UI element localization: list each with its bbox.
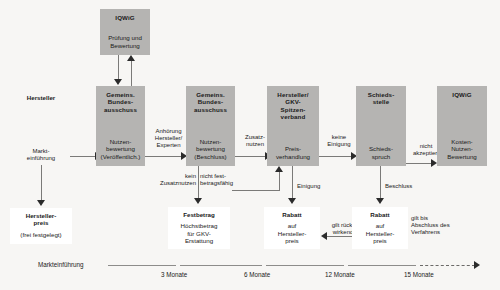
node-herstellerpreis-body: (frei festgelegt): [10, 227, 72, 238]
edge-feedback-line-horizontal: [232, 190, 280, 191]
edge-schiedsstelle-to-rabatt2-arrow: [376, 198, 384, 204]
node-festbetrag-header: Festbetrag: [168, 207, 230, 218]
flowchart-diagram: IQWiG Prüfung und Bewertung Hersteller M…: [0, 0, 500, 290]
edge-iqwig-to-gba1-arrow: [114, 79, 122, 85]
node-hersteller-body: Markt- einführung: [12, 148, 70, 162]
timeline-segment-3: [266, 265, 344, 266]
edge-gba1-to-gba2-line: [145, 156, 182, 157]
timeline-segment-dashed: [420, 265, 475, 266]
node-iqwig-right-body: Kosten- Nutzen- Bewertung: [437, 138, 487, 160]
node-hersteller-header: Hersteller: [12, 94, 70, 101]
edge-gba2-to-festbetrag-line: [198, 166, 199, 199]
node-rabatt-1-header: Rabatt: [264, 207, 320, 218]
timeline-tick-label-15-monate: 15 Monate: [404, 271, 434, 278]
node-iqwig-top-header: IQWiG: [100, 9, 150, 21]
edge-schiedsstelle-to-iqwig-line: [406, 163, 432, 164]
node-rabatt-2-header: Rabatt: [352, 207, 408, 218]
node-schiedsstelle: Schieds- stelle Schieds- spruch: [356, 86, 406, 166]
edge-gba1-to-iqwig-line: [131, 61, 132, 86]
timeline-tick-label-6-monate: 6 Monate: [244, 271, 270, 278]
timeline-start-label: Markteinführung: [38, 261, 84, 268]
edge-label-gilt-bis-abschluss: gilt bis Abschluss des Verfahrens: [411, 215, 481, 237]
node-hersteller-gkv-spitzenverband: Hersteller/ GKV- Spitzen- verband Preis-…: [267, 86, 319, 166]
edge-hersteller-to-preis-arrow: [37, 200, 45, 206]
edge-label-beschluss: Beschluss: [385, 183, 427, 190]
node-rabatt-1-body: auf Hersteller- preis: [264, 218, 320, 244]
node-festbetrag-body: Höchstbetrag für GKV- Erstattung: [168, 218, 230, 244]
edge-label-nicht-festbetragsfaehig: nicht fest- betragsfähig: [200, 173, 256, 187]
node-hersteller: Hersteller: [12, 94, 70, 106]
timeline-segment-1: [108, 265, 176, 266]
timeline-end-arrow: [474, 261, 480, 269]
node-gba-1-header: Gemeins. Bundes- ausschuss: [96, 86, 145, 113]
edge-verband-to-rabatt1-arrow: [288, 198, 296, 204]
edge-verband-to-schiedsstelle-line: [319, 156, 352, 157]
edge-gba2-to-verband-line: [235, 156, 266, 157]
edge-verband-to-rabatt1-line: [292, 166, 293, 199]
node-iqwig-top: IQWiG Prüfung und Bewertung: [100, 9, 150, 55]
edge-rabatt2-to-rabatt1-arrow: [321, 232, 327, 240]
node-gba-2-body: Nutzen- bewertung (Beschluss): [186, 138, 235, 160]
edge-feedback-line-vertical: [279, 172, 280, 191]
node-iqwig-top-body: Prüfung und Bewertung: [100, 34, 150, 49]
node-verband-body: Preis- verhandlung: [267, 145, 319, 160]
node-verband-header: Hersteller/ GKV- Spitzen- verband: [267, 86, 319, 120]
node-herstellerpreis: Hersteller- preis (frei festgelegt): [10, 208, 72, 244]
timeline-segment-4: [348, 265, 416, 266]
edge-gba1-to-iqwig-arrow: [127, 55, 135, 61]
node-schiedsstelle-body: Schieds- spruch: [356, 145, 406, 160]
timeline-tick-label-3-monate: 3 Monate: [161, 271, 187, 278]
node-gba-1: Gemeins. Bundes- ausschuss Nutzen- bewer…: [96, 86, 145, 166]
node-gba-1-body: Nutzen- bewertung (Veröffentlich.): [96, 138, 145, 160]
node-iqwig-right-header: IQWiG: [437, 86, 487, 98]
timeline-segment-2: [180, 265, 262, 266]
edge-label-kein-zusatznutzen: kein Zusatznutzen: [147, 173, 196, 187]
edge-label-anhoerung: Anhörung Hersteller/ Experten: [146, 128, 191, 150]
edge-schiedsstelle-to-rabatt2-line: [380, 166, 381, 199]
edge-label-einigung: Einigung: [297, 183, 337, 190]
timeline-tick-label-12-monate: 12 Monate: [325, 271, 355, 278]
edge-iqwig-to-gba1-line: [118, 55, 119, 80]
node-rabatt-1: Rabatt auf Hersteller- preis: [264, 207, 320, 249]
node-rabatt-2-body: auf Hersteller- preis: [352, 218, 408, 244]
node-gba-2: Gemeins. Bundes- ausschuss Nutzen- bewer…: [186, 86, 235, 166]
edge-hersteller-to-preis-line: [41, 165, 42, 201]
edge-gba2-to-festbetrag-arrow: [194, 198, 202, 204]
edge-feedback-arrow: [275, 166, 283, 172]
node-gba-2-header: Gemeins. Bundes- ausschuss: [186, 86, 235, 113]
node-herstellerpreis-header: Hersteller- preis: [10, 208, 72, 227]
edge-rabatt2-to-rabatt1-line: [327, 236, 354, 237]
node-festbetrag: Festbetrag Höchstbetrag für GKV- Erstatt…: [168, 207, 230, 249]
edge-markteinfuehrung-line: [70, 156, 96, 157]
node-rabatt-2: Rabatt auf Hersteller- preis: [352, 207, 408, 249]
edge-label-keine-einigung: keine Einigung: [319, 134, 359, 148]
node-iqwig-right: IQWiG Kosten- Nutzen- Bewertung: [437, 86, 487, 166]
node-schiedsstelle-header: Schieds- stelle: [356, 86, 406, 106]
